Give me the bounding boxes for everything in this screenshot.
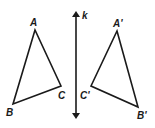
- vertex-label-c-prime: C': [80, 90, 90, 101]
- line-label-k: k: [82, 10, 88, 21]
- vertex-label-a: A: [29, 17, 37, 28]
- diagram-canvas: k A B C A' B' C': [0, 0, 155, 128]
- vertex-label-a-prime: A': [112, 18, 123, 29]
- vertex-label-b-prime: B': [137, 110, 147, 121]
- vertex-label-b: B: [6, 107, 13, 118]
- vertex-label-c: C: [58, 90, 66, 101]
- triangle-abc: [13, 30, 61, 104]
- reflection-diagram: k A B C A' B' C': [0, 0, 155, 128]
- triangle-a-prime-b-prime-c-prime: [91, 31, 138, 107]
